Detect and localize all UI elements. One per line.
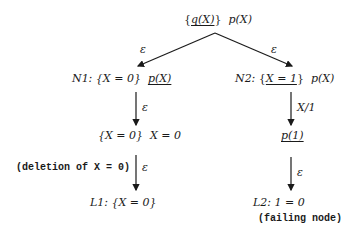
root-goal-set: q(X) [191,13,214,26]
node-n1a-goal: X = 0 [150,129,181,142]
node-l2-name: L2: [253,196,271,209]
node-l1-constraint: {X = 0} [112,196,157,209]
root-goal: p(X) [228,13,251,26]
node-n2: N2: {X = 1} p(X) [235,73,334,85]
node-n1a-constraint: {X = 0} [98,129,143,142]
edge-label-n2-n2a: X/1 [297,101,316,114]
node-n1-goal: p(X) [148,72,171,85]
edge-note-deletion: (deletion of X = 0) [16,162,130,174]
edge-label-n2a-l2: ε [297,166,303,179]
node-l2-note: (failing node) [258,213,342,225]
edge-label-root-n1: ε [140,43,146,56]
node-l1-name: L1: [90,196,108,209]
node-n2a-goal: p(1) [281,129,304,142]
node-n2-goal: p(X) [311,72,334,85]
node-l2-goal: 1 = 0 [275,196,305,209]
edge-label-root-n2: ε [271,43,277,56]
node-n2-constraint: X = 1 [266,72,297,85]
root-node: {q(X)} p(X) [184,14,252,26]
node-n2-name: N2: [235,72,255,85]
edge-label-n1-n1a: ε [142,101,148,114]
edge-label-n1a-l1: ε [142,161,148,174]
node-l2: L2: 1 = 0 [253,197,305,209]
node-n1a: {X = 0} X = 0 [98,130,181,142]
edge-root-n2 [215,33,292,66]
node-n1: N1: {X = 0} p(X) [72,73,171,85]
tree-edges [0,0,362,238]
node-l1: L1: {X = 0} [90,197,157,209]
edge-root-n1 [138,33,215,66]
node-n2a: p(1) [281,130,304,142]
node-n1-constraint: {X = 0} [96,72,141,85]
node-n1-name: N1: [72,72,92,85]
